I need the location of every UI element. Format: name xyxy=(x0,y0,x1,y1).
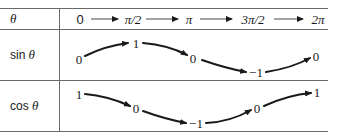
sin-value-2: 0 xyxy=(190,52,197,65)
cos-value-2: −1 xyxy=(189,117,203,130)
sin-value-0: 0 xyxy=(76,53,83,66)
cos-value-0: 1 xyxy=(76,88,83,101)
arrow-curves xyxy=(0,0,343,139)
sin-value-1: 1 xyxy=(133,37,140,50)
sin-arrows xyxy=(85,43,310,72)
sin-value-4: 0 xyxy=(313,50,320,63)
cos-value-3: 0 xyxy=(254,102,261,115)
cos-value-1: 0 xyxy=(133,102,140,115)
cos-value-4: 1 xyxy=(314,86,321,99)
sin-value-3: −1 xyxy=(249,66,263,79)
